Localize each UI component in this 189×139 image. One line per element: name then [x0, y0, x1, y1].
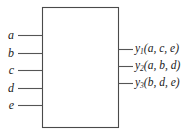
- input-label-c: c: [0, 64, 14, 76]
- output-label-y3-subscript: 3: [140, 81, 144, 90]
- output-label-y2-subscript: 2: [140, 64, 144, 73]
- input-label-a: a: [0, 29, 14, 41]
- output-label-y2-args: (a, b, d): [144, 59, 180, 71]
- output-label-y2: y2(a, b, d): [135, 60, 180, 72]
- output-label-y3-args: (b, d, e): [144, 76, 180, 88]
- output-label-y1: y1(a, c, e): [135, 43, 179, 55]
- black-box-diagram: a b c d e y1(a, c, e) y2(a, b, d) y3(b, …: [0, 0, 189, 139]
- output-label-y1-subscript: 1: [140, 47, 144, 56]
- input-label-d: d: [0, 82, 14, 94]
- output-label-y1-args: (a, c, e): [144, 42, 179, 54]
- input-label-b: b: [0, 47, 14, 59]
- input-lines-group: [18, 36, 43, 106]
- output-lines-group: [119, 50, 134, 84]
- output-label-y3: y3(b, d, e): [135, 77, 180, 89]
- black-box-rectangle: [43, 8, 119, 128]
- input-label-e: e: [0, 99, 14, 111]
